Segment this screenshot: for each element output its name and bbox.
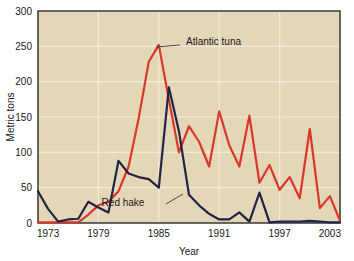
x-tick-label: 1979 [87, 228, 110, 239]
y-axis-title: Metric tons [5, 93, 16, 142]
line-chart: 050100150200250300 197319791985199119972… [0, 0, 354, 261]
x-tick-label: 1997 [268, 228, 291, 239]
y-tick-label: 300 [15, 6, 32, 17]
x-tick-label: 2003 [319, 228, 342, 239]
y-tick-label: 150 [15, 112, 32, 123]
y-tick-label: 100 [15, 147, 32, 158]
y-tick-label: 0 [26, 218, 32, 229]
series-label-atlantic-tuna: Atlantic tuna [186, 36, 241, 47]
y-tick-label: 50 [21, 182, 33, 193]
chart-container: 050100150200250300 197319791985199119972… [0, 0, 354, 261]
x-tick-label: 1973 [37, 228, 60, 239]
y-tick-label: 200 [15, 76, 32, 87]
y-tick-label: 250 [15, 41, 32, 52]
x-axis-title: Year [179, 246, 200, 257]
x-tick-label: 1985 [148, 228, 171, 239]
x-tick-label: 1991 [208, 228, 231, 239]
series-label-red-hake: Red hake [102, 197, 145, 208]
